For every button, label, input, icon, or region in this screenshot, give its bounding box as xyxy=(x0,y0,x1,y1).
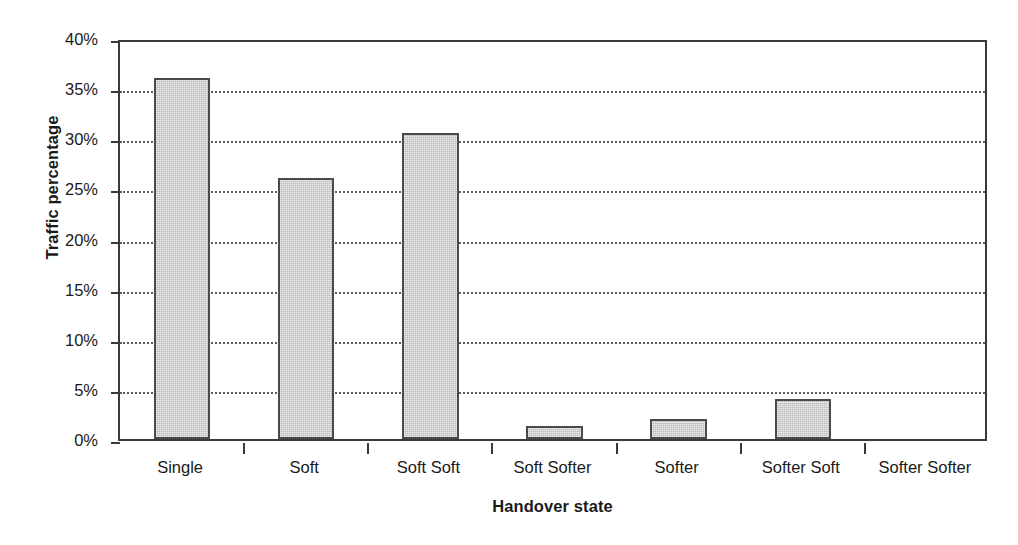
gridline xyxy=(120,242,985,244)
x-axis-tick-label: Softer xyxy=(615,459,739,476)
gridline xyxy=(120,91,985,93)
x-axis-tick xyxy=(367,443,369,454)
x-axis-tick xyxy=(740,443,742,454)
x-axis-tick xyxy=(243,443,245,454)
x-axis-tick-label: Single xyxy=(118,459,242,476)
y-axis-tick-label: 35% xyxy=(38,81,98,98)
x-axis-tick-label: Soft Soft xyxy=(366,459,490,476)
x-axis-tick-label: Soft Softer xyxy=(490,459,614,476)
y-axis-tick xyxy=(111,41,120,43)
y-axis-tick-label: 5% xyxy=(38,382,98,399)
x-axis-tick-label: Softer Softer xyxy=(863,459,987,476)
y-axis-tick xyxy=(111,392,120,394)
x-axis-tick xyxy=(491,443,493,454)
y-axis-tick-label: 15% xyxy=(38,282,98,299)
gridline xyxy=(120,141,985,143)
y-axis-tick xyxy=(111,141,120,143)
y-axis-tick xyxy=(111,242,120,244)
y-axis-tick-label: 30% xyxy=(38,131,98,148)
bar-chart-figure: Traffic percentage Handover state 0%5%10… xyxy=(0,0,1018,545)
bar xyxy=(650,419,706,439)
x-axis-tick xyxy=(616,443,618,454)
y-axis-tick xyxy=(111,191,120,193)
gridline xyxy=(120,342,985,344)
gridline xyxy=(120,392,985,394)
bar xyxy=(278,178,334,439)
y-axis-tick-label: 25% xyxy=(38,181,98,198)
bar xyxy=(154,78,210,439)
y-axis-tick-label: 40% xyxy=(38,31,98,48)
y-axis-tick xyxy=(111,342,120,344)
bar xyxy=(526,426,582,439)
y-axis-tick xyxy=(111,442,120,444)
y-axis-tick-label: 10% xyxy=(38,332,98,349)
gridline xyxy=(120,292,985,294)
x-axis-title: Handover state xyxy=(118,497,987,516)
y-axis-tick-label: 0% xyxy=(38,432,98,449)
x-axis-tick-label: Soft xyxy=(242,459,366,476)
bar xyxy=(402,133,458,439)
bar xyxy=(775,399,831,439)
x-axis-tick xyxy=(864,443,866,454)
y-axis-tick xyxy=(111,292,120,294)
gridline xyxy=(120,191,985,193)
plot-area xyxy=(118,40,987,441)
y-axis-tick-label: 20% xyxy=(38,232,98,249)
x-axis-tick-label: Softer Soft xyxy=(739,459,863,476)
y-axis-tick xyxy=(111,91,120,93)
